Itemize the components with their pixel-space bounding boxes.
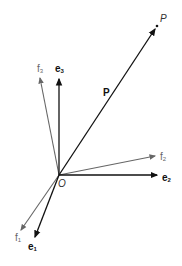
point-p-dot	[156, 25, 159, 28]
point-p-label: P	[160, 13, 167, 24]
e2-label: e2	[162, 172, 172, 183]
e1-label: e1	[28, 241, 38, 252]
f3-label: f3	[37, 63, 44, 74]
coordinate-frames-diagram: P P O e3 f3 e2 f2 e1 f1	[0, 0, 182, 266]
position-vector-p	[59, 29, 155, 175]
f1-label: f1	[15, 232, 22, 243]
f2-label: f2	[160, 151, 167, 162]
e1-vector	[35, 175, 59, 237]
position-vector-label: P	[103, 87, 110, 98]
origin-label: O	[58, 178, 66, 189]
f2-vector	[59, 156, 155, 175]
f3-vector	[40, 78, 59, 175]
e3-label: e3	[55, 63, 65, 74]
f1-vector	[21, 175, 59, 230]
